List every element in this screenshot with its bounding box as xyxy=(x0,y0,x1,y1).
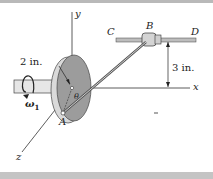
z-axis-label: z xyxy=(16,152,21,162)
point-a-label: A xyxy=(59,117,66,127)
omega-subscript: 1 xyxy=(35,103,40,112)
point-c-label: C xyxy=(107,27,115,37)
height-dimension-label: 3 in. xyxy=(172,63,194,73)
point-b-label: B xyxy=(146,21,153,31)
radius-dimension-label: 2 in. xyxy=(20,57,42,67)
point-d-label: D xyxy=(191,27,199,37)
omega-symbol: ω xyxy=(25,98,35,109)
omega-label: ω1 xyxy=(25,99,39,111)
pin-a xyxy=(61,111,65,115)
y-axis-label: y xyxy=(75,9,81,19)
angle-theta-label: θ xyxy=(74,93,79,101)
point-o xyxy=(70,86,73,89)
x-axis-label: x xyxy=(193,82,199,92)
bottom-frame-bar xyxy=(0,172,213,179)
